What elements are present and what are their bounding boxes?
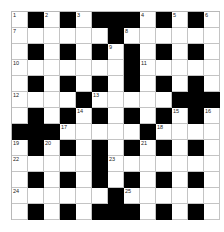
answer-cell[interactable]: [12, 76, 28, 92]
answer-cell[interactable]: [60, 60, 76, 76]
answer-cell[interactable]: 12: [12, 92, 28, 108]
answer-cell[interactable]: [76, 124, 92, 140]
answer-cell[interactable]: 10: [12, 60, 28, 76]
answer-cell[interactable]: [188, 188, 204, 204]
answer-cell[interactable]: [172, 28, 188, 44]
answer-cell[interactable]: [28, 28, 44, 44]
answer-cell[interactable]: [44, 172, 60, 188]
answer-cell[interactable]: [204, 204, 220, 220]
answer-cell[interactable]: [156, 156, 172, 172]
answer-cell[interactable]: [28, 188, 44, 204]
answer-cell[interactable]: 5: [172, 12, 188, 28]
answer-cell[interactable]: [28, 92, 44, 108]
answer-cell[interactable]: [76, 44, 92, 60]
answer-cell[interactable]: [12, 204, 28, 220]
answer-cell[interactable]: [60, 188, 76, 204]
answer-cell[interactable]: [124, 92, 140, 108]
answer-cell[interactable]: [28, 60, 44, 76]
answer-cell[interactable]: [204, 60, 220, 76]
answer-cell[interactable]: [172, 188, 188, 204]
answer-cell[interactable]: 7: [12, 28, 28, 44]
answer-cell[interactable]: [92, 28, 108, 44]
answer-cell[interactable]: [140, 172, 156, 188]
answer-cell[interactable]: [12, 44, 28, 60]
answer-cell[interactable]: [76, 60, 92, 76]
answer-cell[interactable]: 20: [44, 140, 60, 156]
answer-cell[interactable]: 1: [12, 12, 28, 28]
answer-cell[interactable]: [76, 76, 92, 92]
answer-cell[interactable]: [44, 204, 60, 220]
answer-cell[interactable]: [204, 76, 220, 92]
answer-cell[interactable]: [188, 156, 204, 172]
answer-cell[interactable]: 11: [140, 60, 156, 76]
answer-cell[interactable]: 24: [12, 188, 28, 204]
answer-cell[interactable]: 22: [12, 156, 28, 172]
answer-cell[interactable]: [172, 172, 188, 188]
answer-cell[interactable]: 2: [44, 12, 60, 28]
answer-cell[interactable]: 14: [76, 108, 92, 124]
answer-cell[interactable]: 16: [204, 108, 220, 124]
answer-cell[interactable]: [44, 60, 60, 76]
answer-cell[interactable]: 18: [156, 124, 172, 140]
answer-cell[interactable]: [188, 60, 204, 76]
answer-cell[interactable]: [108, 140, 124, 156]
answer-cell[interactable]: [108, 60, 124, 76]
answer-cell[interactable]: [76, 140, 92, 156]
answer-cell[interactable]: [140, 44, 156, 60]
answer-cell[interactable]: [188, 124, 204, 140]
answer-cell[interactable]: 25: [124, 188, 140, 204]
answer-cell[interactable]: [204, 188, 220, 204]
answer-cell[interactable]: [44, 92, 60, 108]
answer-cell[interactable]: 19: [12, 140, 28, 156]
answer-cell[interactable]: [12, 108, 28, 124]
answer-cell[interactable]: [44, 44, 60, 60]
answer-cell[interactable]: 21: [140, 140, 156, 156]
answer-cell[interactable]: [44, 156, 60, 172]
answer-cell[interactable]: [204, 140, 220, 156]
answer-cell[interactable]: [204, 156, 220, 172]
answer-cell[interactable]: [140, 92, 156, 108]
answer-cell[interactable]: 8: [124, 28, 140, 44]
answer-cell[interactable]: [172, 76, 188, 92]
answer-cell[interactable]: [140, 76, 156, 92]
answer-cell[interactable]: [108, 92, 124, 108]
answer-cell[interactable]: [12, 172, 28, 188]
answer-cell[interactable]: [156, 28, 172, 44]
answer-cell[interactable]: [108, 172, 124, 188]
answer-cell[interactable]: [124, 156, 140, 172]
answer-cell[interactable]: [156, 188, 172, 204]
answer-cell[interactable]: [172, 140, 188, 156]
answer-cell[interactable]: [140, 204, 156, 220]
answer-cell[interactable]: 17: [60, 124, 76, 140]
answer-cell[interactable]: 4: [140, 12, 156, 28]
answer-cell[interactable]: [44, 188, 60, 204]
answer-cell[interactable]: [140, 108, 156, 124]
answer-cell[interactable]: [204, 28, 220, 44]
answer-cell[interactable]: [172, 156, 188, 172]
answer-cell[interactable]: [140, 28, 156, 44]
answer-cell[interactable]: [76, 28, 92, 44]
answer-cell[interactable]: 3: [76, 12, 92, 28]
answer-cell[interactable]: [172, 124, 188, 140]
answer-cell[interactable]: 15: [172, 108, 188, 124]
answer-cell[interactable]: 23: [108, 156, 124, 172]
answer-cell[interactable]: [108, 76, 124, 92]
answer-cell[interactable]: [204, 44, 220, 60]
answer-cell[interactable]: [156, 60, 172, 76]
answer-cell[interactable]: [92, 124, 108, 140]
answer-cell[interactable]: [60, 92, 76, 108]
answer-cell[interactable]: [140, 156, 156, 172]
answer-cell[interactable]: [188, 28, 204, 44]
answer-cell[interactable]: [44, 108, 60, 124]
answer-cell[interactable]: [172, 60, 188, 76]
answer-cell[interactable]: 6: [204, 12, 220, 28]
answer-cell[interactable]: [108, 108, 124, 124]
answer-cell[interactable]: [76, 156, 92, 172]
answer-cell[interactable]: [172, 204, 188, 220]
answer-cell[interactable]: [76, 172, 92, 188]
answer-cell[interactable]: [44, 76, 60, 92]
answer-cell[interactable]: [108, 124, 124, 140]
answer-cell[interactable]: [60, 156, 76, 172]
answer-cell[interactable]: [76, 204, 92, 220]
answer-cell[interactable]: [44, 28, 60, 44]
